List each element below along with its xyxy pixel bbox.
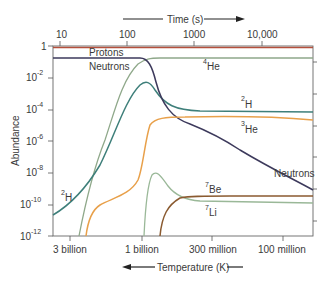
y-tick-label: 1 bbox=[41, 41, 47, 52]
svg-text:He: He bbox=[245, 124, 258, 135]
top-tick-label: 10 bbox=[56, 29, 68, 40]
y-tick-label: 10 -2 bbox=[26, 69, 43, 83]
time-axis-title: Time (s) bbox=[167, 14, 203, 25]
helium3-label: 3 He bbox=[241, 120, 258, 135]
y-tick-label: 10 -8 bbox=[26, 164, 43, 178]
y-tick-label: 10 -4 bbox=[26, 101, 43, 115]
protons-label: Protons bbox=[89, 47, 123, 58]
helium4-curve bbox=[79, 58, 313, 236]
y-tick-label: 10 -12 bbox=[20, 228, 41, 242]
svg-text:10: 10 bbox=[20, 231, 32, 242]
svg-text:10: 10 bbox=[26, 72, 38, 83]
svg-text:10: 10 bbox=[26, 136, 38, 147]
deuterium-label-right: 2 H bbox=[241, 95, 252, 110]
svg-text:-2: -2 bbox=[37, 69, 43, 76]
top-tick-label: 1000 bbox=[183, 29, 206, 40]
neutrons-label-top: Neutrons bbox=[89, 61, 130, 72]
y-tick-label: 10 -6 bbox=[26, 133, 43, 147]
svg-text:H: H bbox=[65, 192, 72, 203]
bottom-ticks bbox=[70, 236, 283, 241]
svg-text:-12: -12 bbox=[31, 228, 41, 235]
svg-text:-6: -6 bbox=[37, 133, 43, 140]
plot-frame bbox=[53, 46, 313, 236]
neutrons-label-right: Neutrons bbox=[274, 168, 315, 179]
left-ticks bbox=[48, 46, 53, 236]
deuterium-curve bbox=[53, 82, 313, 215]
top-tick-label: 10,000 bbox=[247, 29, 278, 40]
bottom-tick-label: 1 billion bbox=[125, 244, 159, 255]
arrow-right-icon bbox=[236, 16, 245, 22]
top-tick-label: 100 bbox=[119, 29, 136, 40]
abundance-chart: Time (s) 10 100 1000 10,000 1 10 -2 bbox=[0, 0, 324, 283]
bottom-tick-label: 3 billion bbox=[53, 244, 87, 255]
svg-text:Li: Li bbox=[209, 207, 217, 218]
helium4-label: 4 He bbox=[203, 58, 220, 72]
svg-text:10: 10 bbox=[20, 199, 32, 210]
bottom-tick-label: 100 million bbox=[258, 244, 306, 255]
svg-text:Be: Be bbox=[209, 184, 222, 195]
temperature-axis-title: Temperature (K) bbox=[157, 262, 229, 273]
svg-text:He: He bbox=[207, 61, 220, 72]
svg-text:10: 10 bbox=[26, 167, 38, 178]
lithium7-curve bbox=[144, 173, 313, 236]
beryllium7-label: 7 Be bbox=[205, 181, 222, 195]
svg-text:10: 10 bbox=[26, 104, 38, 115]
svg-text:-8: -8 bbox=[37, 164, 43, 171]
top-ticks bbox=[60, 41, 262, 46]
svg-text:-4: -4 bbox=[37, 101, 43, 108]
y-axis-title: Abundance bbox=[10, 115, 21, 166]
right-ticks bbox=[313, 62, 317, 221]
y-tick-label: 10 -10 bbox=[20, 196, 41, 210]
bottom-tick-label: 300 million bbox=[189, 244, 237, 255]
lithium7-label: 7 Li bbox=[205, 204, 217, 218]
svg-text:-10: -10 bbox=[31, 196, 41, 203]
svg-text:H: H bbox=[245, 99, 252, 110]
deuterium-label-left: 2 H bbox=[61, 189, 72, 203]
